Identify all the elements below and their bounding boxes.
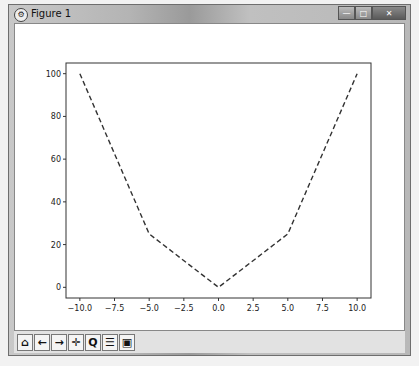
axes-frame	[66, 63, 371, 298]
y-tick-label: 40	[51, 198, 61, 207]
y-tick-label: 60	[51, 155, 61, 164]
zoom-button[interactable]: Q	[85, 334, 101, 351]
save-icon: ▣	[122, 336, 132, 349]
back-arrow-icon: ←	[37, 336, 46, 349]
pan-icon: ✛	[71, 336, 80, 349]
x-tick-label: −2.5	[174, 304, 193, 313]
home-button[interactable]: ⌂	[17, 334, 33, 351]
line-chart: −10.0−7.5−5.0−2.50.02.55.07.510.00204060…	[15, 24, 404, 330]
configure-subplots-button[interactable]: ☰	[102, 334, 118, 351]
back-button[interactable]: ←	[34, 334, 50, 351]
configure-subplots-icon: ☰	[105, 336, 115, 349]
forward-button[interactable]: →	[51, 334, 67, 351]
y-tick-label: 0	[56, 283, 61, 292]
data-series-line	[80, 74, 357, 288]
plot-canvas[interactable]: −10.0−7.5−5.0−2.50.02.55.07.510.00204060…	[14, 23, 405, 331]
minimize-button[interactable]: —	[338, 6, 355, 20]
x-tick-label: 5.0	[281, 304, 294, 313]
zoom-icon: Q	[88, 336, 97, 349]
maximize-button[interactable]: □	[355, 6, 372, 20]
x-tick-label: 0.0	[212, 304, 225, 313]
x-tick-label: 10.0	[348, 304, 366, 313]
x-tick-label: 2.5	[247, 304, 260, 313]
y-tick-label: 80	[51, 112, 61, 121]
pan-button[interactable]: ✛	[68, 334, 84, 351]
x-tick-label: −10.0	[68, 304, 93, 313]
window-title: Figure 1	[31, 8, 71, 19]
y-tick-label: 20	[51, 241, 61, 250]
y-tick-label: 100	[46, 70, 61, 79]
x-tick-label: −7.5	[105, 304, 124, 313]
close-button[interactable]: ✕	[372, 6, 406, 20]
title-bar[interactable]: ⚙ Figure 1 — □ ✕	[9, 5, 410, 25]
forward-arrow-icon: →	[54, 336, 63, 349]
x-tick-label: 7.5	[316, 304, 329, 313]
home-icon: ⌂	[21, 336, 29, 349]
figure-window: ⚙ Figure 1 — □ ✕ −10.0−7.5−5.0−2.50.02.5…	[8, 4, 411, 356]
navigation-toolbar: ⌂ ← → ✛ Q ☰ ▣	[14, 331, 405, 353]
x-tick-label: −5.0	[139, 304, 158, 313]
save-button[interactable]: ▣	[119, 334, 135, 351]
app-icon: ⚙	[14, 8, 28, 22]
